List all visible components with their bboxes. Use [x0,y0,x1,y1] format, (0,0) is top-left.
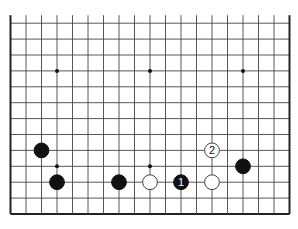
black-stone [50,175,65,190]
black-stone [112,175,127,190]
star-point [55,69,59,73]
star-point [241,69,245,73]
move-number-label: 2 [209,144,215,156]
move-number-label: 1 [178,176,184,188]
black-stone-circle [236,159,251,174]
star-point [55,164,59,168]
black-stone [34,143,49,158]
black-stone-circle [50,175,65,190]
star-point [148,164,152,168]
white-stone [143,175,158,190]
white-stone-circle [143,175,158,190]
white-stone: 2 [205,143,220,158]
star-point [148,69,152,73]
black-stone-circle [112,175,127,190]
black-stone [236,159,251,174]
black-stone-circle [34,143,49,158]
white-stone [205,175,220,190]
go-board-diagram: 12 [0,0,298,229]
white-stone-circle [205,175,220,190]
black-stone: 1 [174,175,189,190]
